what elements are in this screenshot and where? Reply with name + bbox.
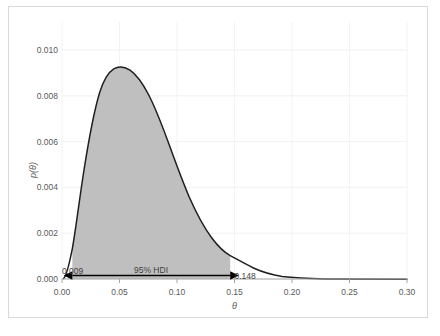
x-tick-label-2: 0.10 (169, 287, 186, 297)
chart-container: 0.000 0.002 0.004 0.006 0.008 0.010 0.00… (0, 0, 440, 336)
chart-plot-area: 0.000 0.002 0.004 0.006 0.008 0.010 0.00… (0, 0, 440, 336)
hdi-lower-bound-label: 0.009 (62, 266, 84, 276)
x-tick-label-0: 0.00 (54, 287, 71, 297)
x-axis-title: θ (232, 301, 237, 311)
hdi-interval-label: 95% HDI (134, 265, 168, 275)
y-axis-title: p(θ) (28, 162, 38, 179)
x-tick-label-3: 0.15 (226, 287, 243, 297)
y-tick-label-3: 0.006 (37, 137, 59, 147)
x-tick-label-5: 0.25 (341, 287, 358, 297)
x-tick-label-1: 0.05 (111, 287, 128, 297)
y-tick-label-0: 0.000 (37, 274, 59, 284)
y-tick-label-1: 0.002 (37, 228, 59, 238)
x-tick-label-6: 0.30 (399, 287, 416, 297)
x-tick-label-4: 0.20 (284, 287, 301, 297)
hdi-upper-bound-label: 0.148 (235, 271, 257, 281)
y-tick-label-2: 0.004 (37, 182, 59, 192)
y-tick-label-4: 0.008 (37, 91, 59, 101)
y-tick-label-5: 0.010 (37, 45, 59, 55)
